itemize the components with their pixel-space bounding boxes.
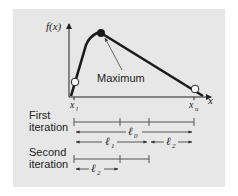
xu-label: x [188,99,194,110]
golden-section-diagram: f(x) x x l x u Maximum First iteration ℓ… [0,0,238,196]
function-curve [71,33,203,96]
xl-point [71,78,79,86]
xu-point [191,85,199,93]
l0-span: ℓ 0 [76,125,192,140]
maximum-point [97,29,105,37]
maximum-label: Maximum [97,72,145,84]
maximum-pointer [105,38,122,70]
l0-symbol: ℓ [128,125,133,137]
first-iteration-bar [74,118,194,126]
y-axis-label: f(x) [46,20,62,33]
xl-label: x [69,99,75,110]
xl-subscript: l [76,105,78,113]
l2-second-symbol: ℓ [91,162,96,174]
l1-symbol: ℓ [105,135,110,147]
second-iteration-bar [74,155,149,163]
l2-subscript: 2 [172,142,176,150]
first-iteration-label-line1: First [29,109,50,121]
l2-symbol: ℓ [166,135,171,147]
l0-subscript: 0 [134,132,138,140]
second-iteration-label-line1: Second [29,146,66,158]
l1-subscript: 1 [111,142,115,150]
axes: f(x) x x l x u [46,20,213,113]
l2-second-subscript: 2 [97,169,101,177]
x-axis-label: x [207,94,213,106]
l2-span: ℓ 2 [151,135,192,150]
l2-second-span: ℓ 2 [76,162,118,177]
xu-subscript: u [195,105,199,113]
first-iteration-label-line2: iteration [29,121,68,133]
second-iteration-label-line2: iteration [29,158,68,170]
